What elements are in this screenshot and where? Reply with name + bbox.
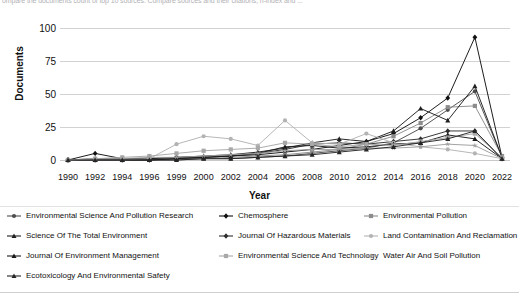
data-point-marker — [446, 147, 450, 151]
data-point-marker — [473, 151, 477, 155]
legend-item-9[interactable]: Water Air And Soil Pollution — [363, 251, 480, 261]
x-axis-tick-label: 1992 — [85, 172, 105, 182]
data-point-marker — [418, 115, 423, 120]
data-point-marker — [12, 214, 16, 218]
data-point-marker — [283, 118, 287, 122]
data-point-marker — [229, 137, 233, 141]
x-axis-tick-label: 2008 — [302, 172, 322, 182]
data-point-marker — [419, 126, 423, 130]
data-point-marker — [369, 234, 373, 238]
x-axis-tick-label: 2020 — [465, 172, 485, 182]
x-axis-tick-label: 1996 — [139, 172, 159, 182]
data-point-marker — [202, 134, 206, 138]
x-axis-tick-label: 2010 — [329, 172, 349, 182]
legend-marker-icon — [218, 251, 234, 261]
y-axis-tick-label: 75 — [22, 56, 56, 67]
y-axis-title: Documents — [14, 29, 25, 119]
data-point-marker — [310, 142, 314, 146]
x-axis-tick-label: 1990 — [58, 172, 78, 182]
legend-marker-icon — [6, 271, 22, 281]
legend-label: Land Contamination And Reclamation — [383, 231, 517, 241]
legend-label: Ecotoxicology And Environmental Safety — [26, 271, 170, 281]
legend-marker-icon — [363, 231, 379, 241]
data-point-marker — [445, 95, 450, 100]
legend-marker-icon — [6, 211, 22, 221]
x-axis-title: Year — [0, 190, 519, 201]
x-axis-ticks: 1990199219941996199920002002200420062008… — [60, 172, 510, 190]
data-point-marker — [419, 121, 423, 125]
legend-item-2[interactable]: Chemosphere — [218, 211, 288, 221]
legend-label: Journal Of Hazardous Materials — [238, 231, 351, 241]
legend-marker-icon — [6, 231, 22, 241]
data-point-marker — [93, 151, 98, 156]
legend-row: Ecotoxicology And Environmental Safety — [0, 271, 519, 291]
legend-label: Chemosphere — [238, 211, 288, 221]
series-3 — [66, 104, 504, 162]
legend-marker-icon — [363, 251, 379, 261]
legend-label: Science Of The Total Environment — [26, 231, 147, 241]
legend-item-10[interactable]: Ecotoxicology And Environmental Safety — [6, 271, 170, 281]
legend-label: Environmental Science And Technology — [238, 251, 378, 261]
data-point-marker — [446, 105, 450, 109]
legend-item-4[interactable]: Science Of The Total Environment — [6, 231, 147, 241]
legend-label: Environmental Science And Pollution Rese… — [26, 211, 193, 221]
data-point-marker — [229, 147, 233, 151]
legend-item-5[interactable]: Journal Of Hazardous Materials — [218, 231, 351, 241]
data-point-marker — [174, 142, 178, 146]
data-point-marker — [224, 233, 229, 238]
legend-marker-icon — [363, 211, 379, 221]
y-axis-tick-label: 100 — [22, 23, 56, 34]
data-point-marker — [472, 83, 477, 88]
data-point-marker — [472, 35, 477, 40]
chart-legend: Environmental Science And Pollution Rese… — [0, 206, 519, 293]
clipped-caption: ompare the documents count of top 10 sou… — [0, 0, 519, 5]
y-axis-tick-label: 50 — [22, 89, 56, 100]
plot-area: Documents 0255075100 1990199219941996199… — [0, 8, 519, 204]
data-point-marker — [224, 213, 229, 218]
legend-marker-icon — [218, 231, 234, 241]
x-axis-tick-label: 1994 — [112, 172, 132, 182]
legend-label: Journal Of Environment Management — [26, 251, 159, 261]
legend-row: Science Of The Total EnvironmentJournal … — [0, 231, 519, 251]
x-axis-tick-label: 2002 — [221, 172, 241, 182]
legend-item-1[interactable]: Environmental Science And Pollution Rese… — [6, 211, 193, 221]
legend-row: Journal Of Environment ManagementEnviron… — [0, 251, 519, 271]
legend-marker-icon — [218, 211, 234, 221]
x-axis-tick-label: 1999 — [166, 172, 186, 182]
data-point-marker — [256, 146, 260, 150]
x-axis-tick-label: 2006 — [275, 172, 295, 182]
x-axis-tick-label: 2016 — [411, 172, 431, 182]
data-point-marker — [369, 214, 373, 218]
y-axis-tick-label: 25 — [22, 122, 56, 133]
data-point-marker — [391, 134, 395, 138]
x-axis-tick-label: 2022 — [492, 172, 512, 182]
x-axis-tick-label: 2004 — [248, 172, 268, 182]
x-axis-tick-label: 2014 — [383, 172, 403, 182]
legend-item-3[interactable]: Environmental Pollution — [363, 211, 467, 221]
legend-item-8[interactable]: Environmental Science And Technology — [218, 251, 378, 261]
legend-item-7[interactable]: Journal Of Environment Management — [6, 251, 159, 261]
legend-marker-icon — [6, 251, 22, 261]
data-point-marker — [364, 132, 368, 136]
caption-text: ompare the documents count of top 10 sou… — [0, 0, 519, 5]
x-axis-tick-label: 2000 — [194, 172, 214, 182]
data-point-marker — [473, 104, 477, 108]
data-point-marker — [418, 106, 423, 111]
data-point-marker — [202, 149, 206, 153]
data-point-marker — [224, 254, 228, 258]
legend-label: Environmental Pollution — [383, 211, 467, 221]
legend-row: Environmental Science And Pollution Rese… — [0, 211, 519, 231]
x-axis-tick-label: 2018 — [438, 172, 458, 182]
legend-label: Water Air And Soil Pollution — [383, 251, 480, 261]
data-point-marker — [283, 141, 287, 145]
x-axis-tick-label: 2012 — [356, 172, 376, 182]
y-axis-tick-label: 0 — [22, 155, 56, 166]
legend-item-6[interactable]: Land Contamination And Reclamation — [363, 231, 517, 241]
